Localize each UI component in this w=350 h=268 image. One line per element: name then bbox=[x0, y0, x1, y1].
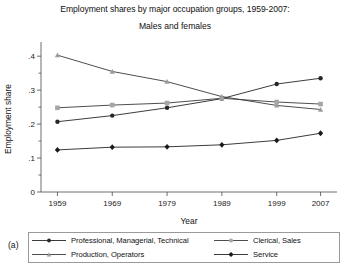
x-tick-label: 1969 bbox=[103, 199, 121, 208]
y-tick-label: .4 bbox=[28, 52, 35, 61]
series-3 bbox=[55, 130, 323, 152]
legend-key-clerical bbox=[213, 235, 249, 246]
data-point bbox=[165, 106, 169, 110]
legend-label-service: Service bbox=[253, 250, 278, 259]
legend-key-production bbox=[31, 249, 67, 260]
x-tick-label: 1989 bbox=[213, 199, 231, 208]
legend-label-professional: Professional, Managerial, Technical bbox=[71, 236, 189, 245]
legend-item-service: Service bbox=[213, 248, 341, 261]
y-tick-label: 0 bbox=[31, 188, 36, 197]
data-point bbox=[274, 137, 279, 143]
series-1 bbox=[55, 96, 323, 110]
data-point bbox=[164, 144, 169, 150]
data-point bbox=[318, 76, 322, 80]
panel-label: (a) bbox=[8, 240, 19, 250]
data-point bbox=[110, 103, 115, 108]
x-tick-label: 1959 bbox=[49, 199, 67, 208]
data-point bbox=[55, 53, 60, 58]
legend-label-clerical: Clerical, Sales bbox=[253, 236, 301, 245]
chart-title: Employment shares by major occupation gr… bbox=[0, 3, 350, 15]
data-point bbox=[318, 130, 323, 136]
y-tick-label: .1 bbox=[28, 154, 35, 163]
x-tick-label: 2007 bbox=[312, 199, 330, 208]
plot-area: 0.1.2.3.4195919691979198919992007YearEmp… bbox=[0, 26, 350, 226]
chart-legend: Professional, Managerial, Technical Cler… bbox=[28, 232, 340, 263]
x-tick-label: 1999 bbox=[268, 199, 286, 208]
legend-key-professional bbox=[31, 235, 67, 246]
series-line-3 bbox=[57, 133, 320, 150]
legend-label-production: Production, Operators bbox=[71, 250, 144, 259]
data-point bbox=[110, 113, 114, 117]
data-point bbox=[110, 144, 115, 150]
y-axis-title: Employment share bbox=[3, 84, 13, 154]
data-point bbox=[275, 82, 279, 86]
legend-item-clerical: Clerical, Sales bbox=[213, 234, 341, 247]
x-axis-title: Year bbox=[181, 216, 198, 226]
data-point bbox=[55, 120, 59, 124]
y-tick-label: .2 bbox=[28, 120, 35, 129]
series-2 bbox=[55, 53, 323, 112]
chart-figure: Employment shares by major occupation gr… bbox=[0, 0, 350, 268]
x-tick-label: 1979 bbox=[158, 199, 176, 208]
legend-item-production: Production, Operators bbox=[31, 248, 213, 261]
data-point bbox=[219, 142, 224, 148]
data-point bbox=[55, 147, 60, 153]
legend-key-service bbox=[213, 249, 249, 260]
data-point bbox=[55, 105, 60, 110]
data-point bbox=[318, 102, 323, 107]
series-line-1 bbox=[57, 98, 320, 108]
legend-item-professional: Professional, Managerial, Technical bbox=[31, 234, 213, 247]
y-tick-label: .3 bbox=[28, 86, 35, 95]
data-point bbox=[165, 101, 170, 106]
series-line-0 bbox=[57, 78, 320, 121]
series-0 bbox=[55, 76, 323, 124]
